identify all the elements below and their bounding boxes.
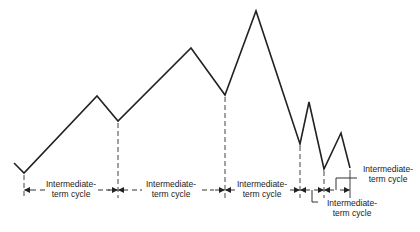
cycle-1-label-line1: Intermediate-: [46, 179, 96, 189]
cycle-2-label-line2: term cycle: [152, 189, 191, 199]
cycle-5-label-line2: term cycle: [369, 174, 408, 184]
cycle-4-label-line1: Intermediate-: [327, 198, 377, 208]
cycle-4-span: [301, 190, 324, 202]
cycle-1-label-line2: term cycle: [52, 189, 91, 199]
cycle-diagram: Intermediate- term cycle Intermediate- t…: [0, 0, 420, 232]
cycle-5-label-line1: Intermediate-: [363, 164, 413, 174]
cycle-3-label-line1: Intermediate-: [237, 179, 287, 189]
cycle-3-label-line2: term cycle: [243, 189, 282, 199]
cycle-5-span: [325, 178, 358, 190]
cycle-4-label-line2: term cycle: [333, 208, 372, 218]
cycle-2-label-line1: Intermediate-: [146, 179, 196, 189]
